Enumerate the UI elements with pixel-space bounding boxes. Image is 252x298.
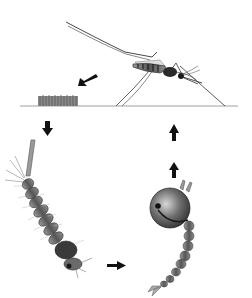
arrow-larva-to-pupa: [107, 261, 126, 270]
mosquito-life-cycle-diagram: [0, 0, 252, 298]
arrow-eggs-to-larva: [42, 121, 53, 136]
diagram-canvas: [0, 0, 252, 298]
egg-raft: [38, 95, 78, 106]
adult-mosquito: [66, 22, 225, 106]
pupa: [148, 180, 194, 296]
arrow-pupa-to-adult-lower: [169, 162, 179, 178]
arrow-adult-to-eggs: [78, 74, 98, 86]
larva: [5, 140, 92, 278]
arrow-pupa-to-adult-upper: [169, 124, 179, 141]
